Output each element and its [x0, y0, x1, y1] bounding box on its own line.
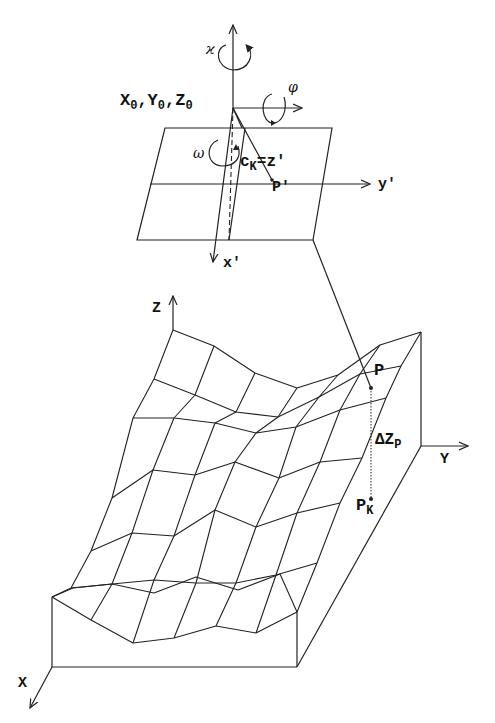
height-difference-label: ΔZP	[375, 432, 401, 451]
x-axis	[30, 667, 52, 708]
phi-label: φ	[288, 80, 298, 94]
terrain-surface-mesh	[52, 330, 421, 643]
projection-ray-lower	[313, 240, 371, 388]
x-prime-axis	[213, 108, 233, 262]
principal-distance-label: cK=z'	[240, 154, 286, 173]
kappa-label: ϰ	[206, 42, 215, 56]
surface-point-label: P	[374, 362, 384, 379]
z-axis-label: Z	[152, 301, 161, 316]
y-axis-label: Y	[440, 452, 449, 467]
x-axis-label: X	[18, 676, 27, 691]
omega-label: ω	[193, 146, 204, 160]
terrain-block	[30, 296, 468, 708]
x-prime-label: x'	[223, 256, 241, 271]
omega-rotation-icon	[209, 140, 239, 166]
projection-center-axes	[218, 25, 302, 126]
ground-point-label: PK	[356, 497, 373, 517]
photogrammetry-diagram	[0, 0, 495, 723]
base-right-edge	[297, 446, 421, 667]
y-prime-label: y'	[378, 177, 396, 192]
projection-center-label: X0,Y0,Z0	[120, 92, 193, 112]
image-point-label: P'	[272, 180, 290, 195]
image-plane	[137, 108, 370, 262]
kappa-rotation-icon	[218, 45, 250, 70]
